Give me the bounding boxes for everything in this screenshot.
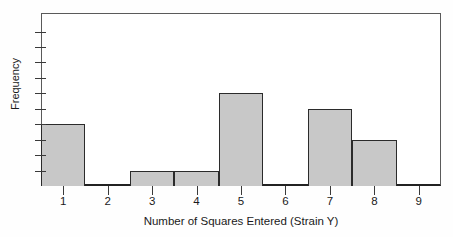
histogram-figure: 12345678910 Frequency 123456789 Number o…: [0, 0, 453, 237]
x-axis-tick: [152, 186, 153, 195]
histogram-bar: [352, 140, 396, 186]
y-axis-tick: [35, 93, 46, 94]
histogram-bar: [219, 93, 263, 186]
y-axis-title: Frequency: [9, 47, 21, 121]
x-axis-tick-label: 8: [362, 196, 386, 208]
histogram-bar: [174, 171, 218, 186]
y-axis-tick: [35, 32, 46, 33]
x-axis-tick: [63, 186, 64, 195]
x-axis-tick: [374, 186, 375, 195]
y-axis-tick: [35, 140, 46, 141]
y-axis-tick: [35, 124, 46, 125]
x-axis-tick-label: 1: [51, 196, 75, 208]
x-axis-tick: [241, 186, 242, 195]
y-axis-tick: [35, 62, 46, 63]
x-axis-tick-label: 4: [185, 196, 209, 208]
x-axis-tick: [108, 186, 109, 195]
x-axis-tick-label: 2: [96, 196, 120, 208]
histogram-bar: [130, 171, 174, 186]
x-axis-title: Number of Squares Entered (Strain Y): [41, 215, 441, 227]
x-axis-tick-label: 7: [318, 196, 342, 208]
x-axis-tick-label: 5: [229, 196, 253, 208]
y-axis-tick: [35, 47, 46, 48]
y-axis-tick: [35, 171, 46, 172]
plot-area: [41, 13, 441, 186]
y-axis-tick: [35, 155, 46, 156]
x-axis-tick-label: 9: [407, 196, 431, 208]
x-axis-tick: [285, 186, 286, 195]
histogram-bar: [41, 124, 85, 186]
y-axis-tick: [35, 109, 46, 110]
x-axis-tick: [419, 186, 420, 195]
x-axis-tick: [197, 186, 198, 195]
histogram-bar: [308, 109, 352, 186]
x-axis-tick-label: 3: [140, 196, 164, 208]
x-axis-tick-label: 6: [273, 196, 297, 208]
x-axis-tick: [330, 186, 331, 195]
y-axis-tick: [35, 78, 46, 79]
